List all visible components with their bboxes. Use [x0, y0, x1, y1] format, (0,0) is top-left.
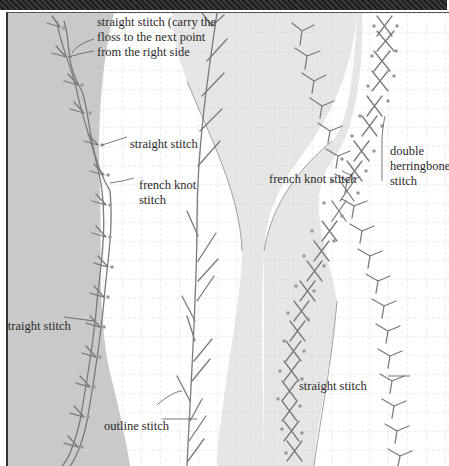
label-french-knot-stitch-2: french knot stitch — [269, 172, 356, 187]
photo-strip-header — [0, 0, 447, 10]
label-french-knot-stitch-1: french knot stitch — [139, 178, 196, 208]
stitch-diagram: straight stitch (carry the floss to the … — [6, 12, 449, 466]
label-straight-stitch-2: straight stitch — [6, 319, 71, 334]
label-outline-stitch: outline stitch — [104, 419, 169, 434]
label-straight-stitch-1: straight stitch — [130, 137, 198, 152]
label-straight-stitch-3: straight stitch — [299, 379, 367, 394]
label-double-herringbone-stitch: double herringbone stitch — [390, 144, 449, 189]
diagram-canvas — [8, 13, 449, 466]
label-straight-stitch-carry: straight stitch (carry the floss to the … — [97, 15, 216, 60]
